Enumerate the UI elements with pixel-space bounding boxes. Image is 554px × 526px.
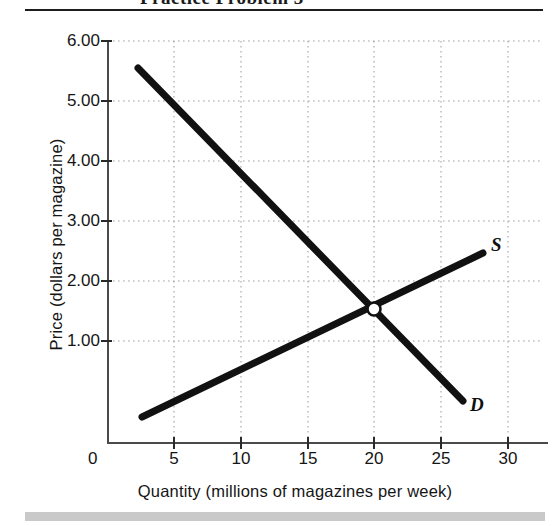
x-tick-label-25: 25	[421, 449, 461, 469]
x-tick-label-0: 0	[88, 449, 97, 469]
supply-curve	[142, 253, 483, 417]
figure-title-cropped: Practice Problem 3	[140, 0, 440, 5]
y-axis-title: Price (dollars per magazine)	[47, 75, 66, 415]
x-tick-label-30: 30	[488, 449, 528, 469]
top-rule-divider	[25, 9, 543, 11]
y-tick-marks	[101, 41, 112, 341]
x-tick-label-20: 20	[354, 449, 394, 469]
demand-curve-label: D	[470, 394, 484, 416]
y-tick-label-6: 6.00	[40, 31, 100, 51]
bottom-gray-band	[25, 512, 545, 521]
figure-container: Practice Problem 3	[0, 0, 554, 526]
x-tick-label-15: 15	[288, 449, 328, 469]
supply-curve-label: S	[491, 234, 502, 256]
x-axis-title: Quantity (millions of magazines per week…	[60, 482, 530, 501]
grid-horizontal	[108, 41, 543, 341]
x-tick-label-10: 10	[221, 449, 261, 469]
x-tick-label-5: 5	[154, 449, 194, 469]
demand-curve	[138, 68, 463, 401]
equilibrium-point-marker	[368, 303, 381, 316]
